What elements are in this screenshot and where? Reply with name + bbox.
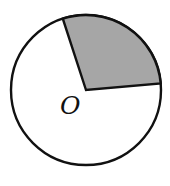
- center-label: O: [60, 91, 81, 120]
- circle-sector-diagram: O: [0, 0, 170, 186]
